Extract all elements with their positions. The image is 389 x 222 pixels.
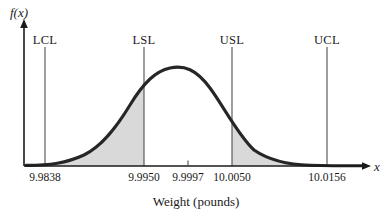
limit-label-lsl: LSL: [132, 34, 155, 47]
shaded-region-above-usl: [26, 67, 364, 166]
tick-label-lsl: 9.9950: [128, 172, 160, 184]
y-axis-label: f(x): [10, 6, 28, 19]
tick-label-ucl: 10.0156: [308, 172, 345, 184]
x-axis-label: x: [374, 160, 380, 173]
y-axis-arrowhead: [20, 19, 28, 28]
tick-label-usl: 10.0050: [213, 172, 250, 184]
x-axis-title: Weight (pounds): [153, 195, 240, 208]
limit-lines: [45, 47, 327, 166]
limit-label-lcl: LCL: [33, 34, 58, 47]
y-axis: [20, 19, 28, 166]
shaded-regions: [26, 67, 364, 166]
normal-distribution-curve: [26, 67, 364, 166]
process-capability-chart: f(x) x LCL LSL USL UCL 9.9838 9.9950 9.9…: [0, 0, 389, 222]
tick-label-lcl: 9.9838: [29, 172, 61, 184]
shaded-region-below-lsl: [26, 67, 364, 166]
limit-label-ucl: UCL: [314, 34, 340, 47]
tick-label-center: 9.9997: [172, 172, 204, 184]
x-axis-arrowhead: [362, 162, 371, 170]
limit-label-usl: USL: [220, 34, 245, 47]
